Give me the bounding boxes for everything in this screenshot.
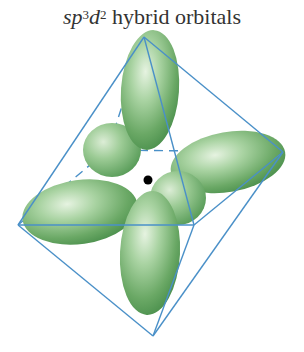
octahedral-orbital-diagram <box>0 0 304 352</box>
central-atom-nucleus <box>144 176 153 185</box>
